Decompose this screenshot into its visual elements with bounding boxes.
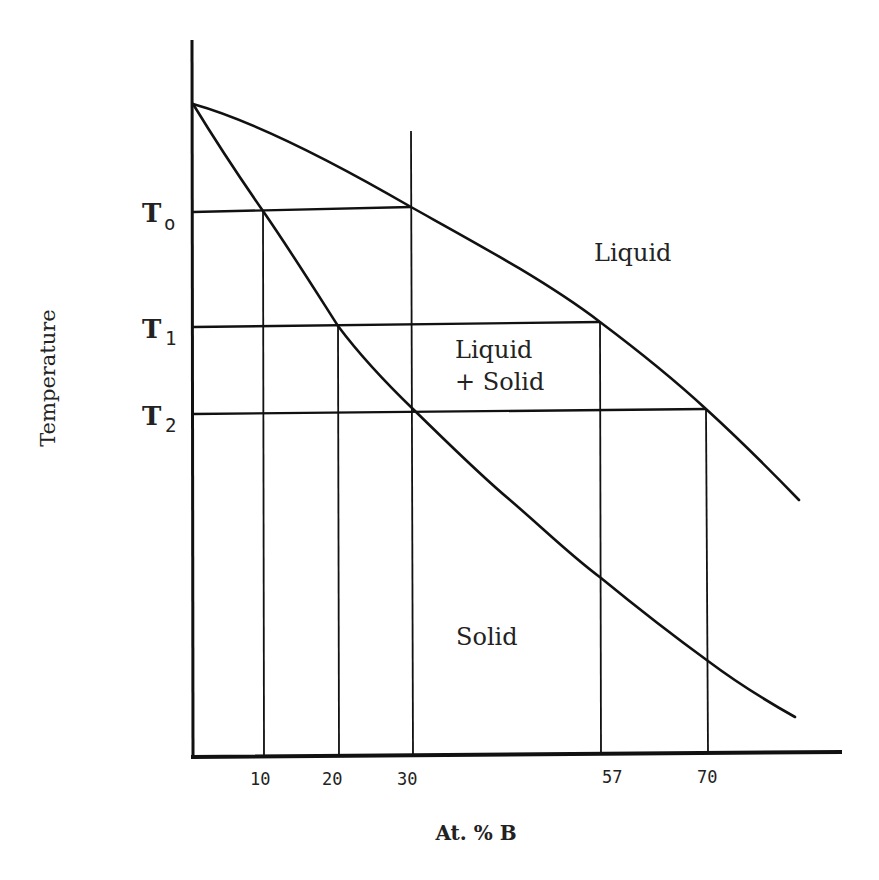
vline-10 <box>263 211 264 756</box>
tieline-t1 <box>193 322 600 327</box>
x-tick-70: 70 <box>697 767 717 787</box>
svg-text:T: T <box>142 198 162 228</box>
region-label-solid: Solid <box>456 623 518 651</box>
vline-20 <box>338 326 339 756</box>
x-tick-20: 20 <box>322 769 342 789</box>
vline-30 <box>411 131 413 755</box>
region-label-liquid-solid-1: Liquid <box>455 336 532 364</box>
y-tick-t1: T 1 <box>142 314 176 349</box>
y-axis-title: Temperature <box>36 309 60 447</box>
vline-57 <box>600 322 601 754</box>
y-axis <box>192 40 193 757</box>
y-tick-t2: T 2 <box>142 401 176 436</box>
svg-text:T: T <box>142 401 162 431</box>
region-label-liquid: Liquid <box>594 239 671 267</box>
svg-text:T: T <box>142 314 162 344</box>
phase-diagram: T o T 1 T 2 10 20 30 57 70 Liquid Liquid… <box>0 0 879 880</box>
x-axis-title: At. % B <box>434 821 516 845</box>
x-axis <box>193 752 840 757</box>
x-tick-10: 10 <box>250 769 270 789</box>
vline-70 <box>706 409 708 753</box>
tieline-t2 <box>193 409 706 414</box>
x-tick-57: 57 <box>602 767 622 787</box>
tieline-t0 <box>193 207 411 212</box>
region-label-liquid-solid-2: + Solid <box>455 368 544 396</box>
svg-text:o: o <box>164 212 175 234</box>
y-tick-t0: T o <box>142 198 175 234</box>
liquidus-curve <box>193 104 799 500</box>
svg-text:2: 2 <box>165 414 176 436</box>
x-tick-30: 30 <box>397 769 417 789</box>
svg-text:1: 1 <box>165 327 176 349</box>
